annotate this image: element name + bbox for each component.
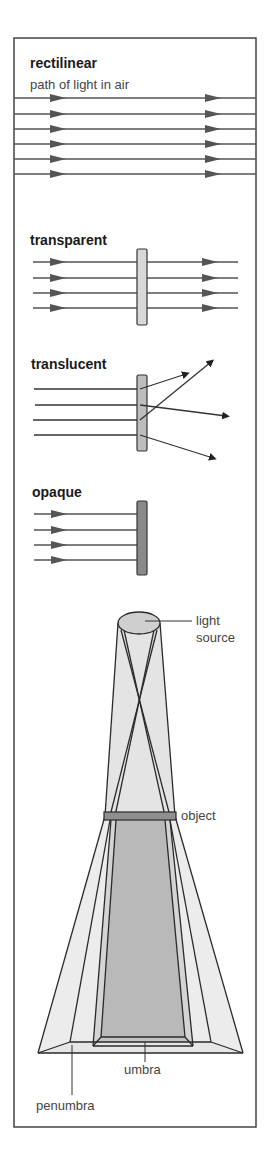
transparent-slab <box>137 249 147 325</box>
opaque-section: opaque <box>32 484 147 575</box>
arrow-head-icon <box>50 258 218 312</box>
rectilinear-title: rectilinear <box>30 55 97 71</box>
arrow-head-icon <box>50 94 221 178</box>
translucent-slab <box>137 375 147 451</box>
transparent-title: transparent <box>30 232 107 248</box>
rectilinear-rays <box>14 94 256 178</box>
translucent-title: translucent <box>31 356 107 372</box>
opaque-slab <box>137 501 147 575</box>
rectilinear-section: rectilinear path of light in air <box>14 55 256 178</box>
scattered-rays <box>140 362 226 458</box>
rectilinear-subtitle: path of light in air <box>30 77 130 92</box>
translucent-section: translucent <box>31 356 226 458</box>
object-bar <box>104 812 176 820</box>
shadow-section: light source object umbra penumbra <box>36 612 243 1113</box>
opaque-title: opaque <box>32 484 82 500</box>
light-diagram: rectilinear path of light in air <box>0 0 265 1174</box>
source-label: source <box>196 630 235 645</box>
umbra-label: umbra <box>124 1062 162 1077</box>
penumbra-label: penumbra <box>36 1098 95 1113</box>
transparent-section: transparent <box>30 232 238 325</box>
arrow-head-icon <box>51 510 67 564</box>
light-label: light <box>196 613 220 628</box>
light-source-icon <box>118 612 160 634</box>
object-label: object <box>181 808 216 823</box>
